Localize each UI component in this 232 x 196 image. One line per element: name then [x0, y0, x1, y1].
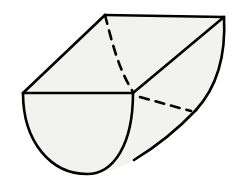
- figure-canvas: Half cylinder (semicircular prism) in ob…: [0, 0, 232, 196]
- solid-fill-group: [23, 15, 224, 174]
- half-cylinder-figure-svg: Half cylinder (semicircular prism) in ob…: [0, 0, 232, 196]
